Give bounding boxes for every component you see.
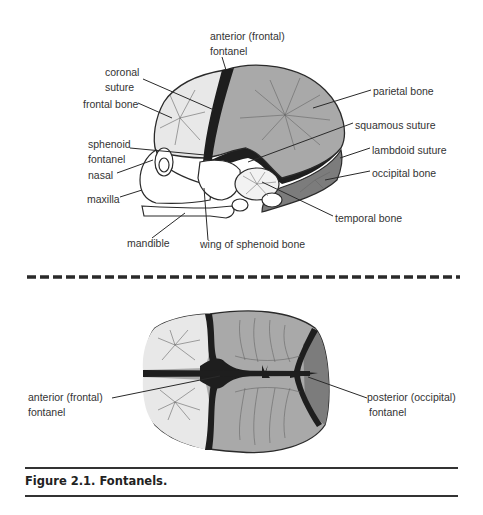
label-temporal-bone: temporal bone bbox=[335, 212, 402, 224]
fontanels-diagram: anterior (frontal) fontanel coronal sutu… bbox=[0, 0, 483, 515]
label-posterior-fontanel-top: posterior (occipital) bbox=[367, 391, 456, 403]
mandible-shape bbox=[142, 206, 234, 218]
label-coronal-suture: coronal bbox=[105, 66, 139, 78]
caption-rule-top bbox=[25, 467, 458, 469]
label-sphenoid-fontanel: sphenoid bbox=[88, 138, 131, 150]
caption-rule-bottom bbox=[25, 495, 458, 497]
label-anterior-fontanel: anterior (frontal) bbox=[210, 30, 285, 42]
label-maxilla: maxilla bbox=[87, 193, 120, 205]
frontal-bone-upper-top bbox=[143, 314, 211, 370]
label-parietal-bone: parietal bone bbox=[373, 85, 434, 97]
frontal-bone-lower-top bbox=[143, 377, 211, 450]
label-wing-of-sphenoid: wing of sphenoid bone bbox=[199, 238, 305, 250]
label-anterior-fontanel-top-line2: fontanel bbox=[28, 406, 65, 418]
label-mandible: mandible bbox=[127, 237, 170, 249]
label-coronal-suture-line2: suture bbox=[105, 81, 134, 93]
label-lambdoid-suture: lambdoid suture bbox=[372, 144, 447, 156]
lateral-skull-view: anterior (frontal) fontanel coronal sutu… bbox=[83, 30, 447, 250]
label-anterior-fontanel-top: anterior (frontal) bbox=[28, 391, 103, 403]
label-posterior-fontanel-top-line2: fontanel bbox=[369, 406, 406, 418]
figure-caption: Figure 2.1. Fontanels. bbox=[25, 474, 167, 488]
top-skull-view: anterior (frontal) fontanel posterior (o… bbox=[28, 311, 456, 453]
label-nasal: nasal bbox=[88, 169, 113, 181]
label-squamous-suture: squamous suture bbox=[355, 119, 436, 131]
label-anterior-fontanel-line2: fontanel bbox=[210, 45, 247, 57]
label-occipital-bone: occipital bone bbox=[372, 167, 436, 179]
label-sphenoid-fontanel-line2: fontanel bbox=[88, 153, 125, 165]
label-frontal-bone: frontal bone bbox=[83, 98, 139, 110]
